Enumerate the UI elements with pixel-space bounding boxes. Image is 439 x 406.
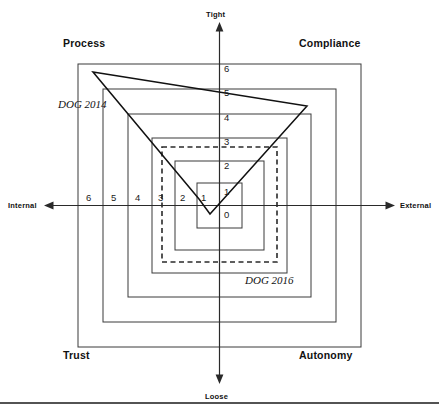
vertical-tick-6: 6	[224, 63, 229, 74]
horizontal-tick-5: 5	[111, 192, 116, 203]
horizontal-scale-numbers: 6 5 4 3 2 1	[86, 192, 206, 203]
vertical-tick-0: 0	[224, 209, 229, 220]
axis-label-tight: Tight	[206, 10, 225, 19]
vertical-tick-3: 3	[224, 136, 229, 147]
axis-label-loose: Loose	[205, 392, 228, 401]
axis-arrow-right-icon	[386, 202, 396, 210]
vertical-tick-4: 4	[224, 112, 229, 123]
series-annotation-dog-2016: DOG 2016	[244, 274, 294, 286]
vertical-tick-2: 2	[224, 160, 229, 171]
axis-label-internal: Internal	[8, 201, 37, 210]
diagram-canvas: 6 5 4 3 2 1 0 6 5 4 3 2 1 Process Compli…	[0, 0, 439, 406]
axis-arrow-up-icon	[216, 22, 224, 32]
axis-arrow-down-icon	[216, 375, 224, 385]
vertical-scale-numbers: 6 5 4 3 2 1 0	[224, 63, 229, 220]
axis-arrow-left-icon	[44, 202, 54, 210]
horizontal-tick-1: 1	[201, 192, 206, 203]
vertical-tick-1: 1	[224, 186, 229, 197]
quadrant-label-autonomy: Autonomy	[299, 349, 353, 361]
quadrant-label-process: Process	[63, 37, 105, 49]
square-radar-diagram: 6 5 4 3 2 1 0 6 5 4 3 2 1 Process Compli…	[0, 0, 439, 406]
series-dog-2014-polygon	[93, 72, 307, 214]
vertical-tick-5: 5	[224, 87, 229, 98]
quadrant-label-compliance: Compliance	[299, 37, 361, 49]
axis-label-external: External	[400, 201, 431, 210]
horizontal-tick-4: 4	[135, 192, 140, 203]
quadrant-label-trust: Trust	[63, 349, 90, 361]
horizontal-tick-6: 6	[86, 192, 91, 203]
horizontal-tick-3: 3	[158, 192, 163, 203]
horizontal-tick-2: 2	[180, 192, 185, 203]
series-annotation-dog-2014: DOG 2014	[57, 98, 107, 110]
